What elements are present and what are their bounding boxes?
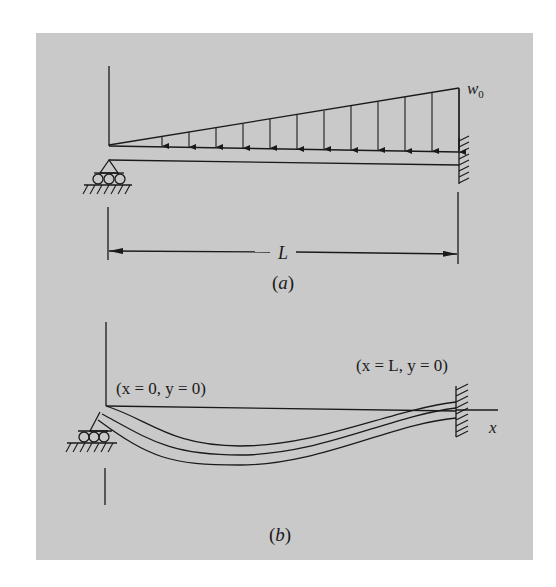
panel-b-caption: (b)	[269, 524, 291, 546]
left-boundary-condition-label: (x = 0, y = 0)	[116, 379, 206, 398]
right-boundary-condition-label: (x = L, y = 0)	[356, 356, 448, 375]
span-length-label: L	[277, 243, 288, 263]
x-axis-label: x	[488, 418, 497, 437]
beam-deflection-figure: w0 L (a)	[0, 0, 556, 587]
panel-a-caption: (a)	[272, 272, 294, 294]
